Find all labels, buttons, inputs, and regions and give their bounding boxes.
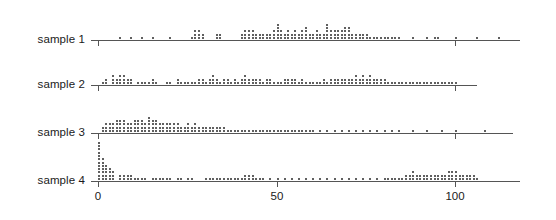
- data-dot: [262, 178, 264, 180]
- data-dot: [127, 130, 129, 132]
- data-dot: [326, 178, 328, 180]
- data-dot: [387, 178, 389, 180]
- data-dot: [237, 130, 239, 132]
- data-dot: [334, 30, 336, 32]
- data-dot: [152, 123, 154, 125]
- data-dot: [380, 79, 382, 81]
- panel-label-2: sample 2: [38, 78, 85, 90]
- data-dot: [123, 127, 125, 129]
- data-dot: [177, 123, 179, 125]
- data-dot: [330, 79, 332, 81]
- data-dot: [359, 82, 361, 84]
- data-dot: [451, 82, 453, 84]
- data-dot: [369, 130, 371, 132]
- data-dot: [284, 130, 286, 132]
- data-dot: [451, 178, 453, 180]
- data-dot: [248, 30, 250, 32]
- data-dot: [159, 178, 161, 180]
- data-dot: [123, 178, 125, 180]
- data-dot: [123, 130, 125, 132]
- data-dot: [155, 120, 157, 122]
- data-dot: [344, 30, 346, 32]
- data-dot: [162, 123, 164, 125]
- data-dot: [337, 30, 339, 32]
- data-dot: [359, 79, 361, 81]
- data-dot: [241, 82, 243, 84]
- data-dot: [362, 79, 364, 81]
- data-dot: [434, 175, 436, 177]
- data-dot: [266, 82, 268, 84]
- data-dot: [469, 178, 471, 180]
- data-dot: [166, 82, 168, 84]
- data-dot: [130, 130, 132, 132]
- data-dot: [301, 37, 303, 39]
- data-dot: [191, 37, 193, 39]
- data-dot: [444, 82, 446, 84]
- data-dot: [198, 34, 200, 36]
- data-dot: [373, 37, 375, 39]
- data-dot: [384, 130, 386, 132]
- data-dot: [255, 130, 257, 132]
- data-dot: [191, 130, 193, 132]
- data-dot: [444, 178, 446, 180]
- data-dot: [341, 79, 343, 81]
- data-dot: [141, 123, 143, 125]
- data-dot: [187, 82, 189, 84]
- data-dot: [152, 120, 154, 122]
- data-dot: [326, 27, 328, 29]
- data-dot: [341, 178, 343, 180]
- data-dot: [259, 79, 261, 81]
- data-dot: [419, 175, 421, 177]
- data-dot: [337, 34, 339, 36]
- data-dot: [448, 82, 450, 84]
- data-dot: [216, 178, 218, 180]
- data-dot: [105, 130, 107, 132]
- data-dot: [294, 82, 296, 84]
- data-dot: [362, 130, 364, 132]
- data-dot: [259, 82, 261, 84]
- data-dot: [312, 178, 314, 180]
- data-dot: [223, 178, 225, 180]
- data-dot: [455, 178, 457, 180]
- data-dot: [291, 82, 293, 84]
- data-dot: [259, 130, 261, 132]
- data-dot: [330, 30, 332, 32]
- data-dot: [294, 30, 296, 32]
- data-dot: [255, 37, 257, 39]
- data-dot: [159, 130, 161, 132]
- data-dot: [202, 82, 204, 84]
- data-dot: [152, 127, 154, 129]
- data-dot: [105, 178, 107, 180]
- data-dot: [391, 178, 393, 180]
- data-dot: [305, 178, 307, 180]
- data-dot: [287, 130, 289, 132]
- data-dot: [205, 130, 207, 132]
- data-dot: [348, 178, 350, 180]
- data-dot: [112, 79, 114, 81]
- x-tick-100: [455, 182, 456, 187]
- data-dot: [137, 130, 139, 132]
- data-dot: [412, 130, 414, 132]
- data-dot: [437, 178, 439, 180]
- data-dot: [223, 82, 225, 84]
- data-dot: [312, 130, 314, 132]
- data-dot: [252, 175, 254, 177]
- data-dot: [398, 37, 400, 39]
- data-dot: [105, 82, 107, 84]
- data-dot: [98, 145, 100, 147]
- data-dot: [369, 79, 371, 81]
- data-dot: [326, 82, 328, 84]
- data-dot: [141, 130, 143, 132]
- data-dot: [273, 130, 275, 132]
- data-dot: [244, 175, 246, 177]
- data-dot: [284, 79, 286, 81]
- data-dot: [401, 178, 403, 180]
- data-dot: [312, 82, 314, 84]
- data-dot: [266, 37, 268, 39]
- data-dot: [323, 79, 325, 81]
- data-dot: [123, 175, 125, 177]
- data-dot: [244, 34, 246, 36]
- data-dot: [366, 79, 368, 81]
- panel-label-1: sample 1: [38, 33, 85, 45]
- data-dot: [412, 171, 414, 173]
